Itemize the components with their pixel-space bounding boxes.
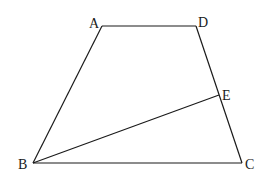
- label-E: E: [222, 88, 231, 103]
- trapezoid-diagram: A D E B C: [0, 0, 268, 177]
- label-A: A: [89, 16, 100, 31]
- segment-DC: [196, 26, 242, 163]
- label-D: D: [198, 15, 208, 30]
- segment-BE: [33, 95, 219, 163]
- segment-BA: [33, 26, 102, 163]
- label-B: B: [18, 157, 27, 172]
- label-C: C: [245, 157, 254, 172]
